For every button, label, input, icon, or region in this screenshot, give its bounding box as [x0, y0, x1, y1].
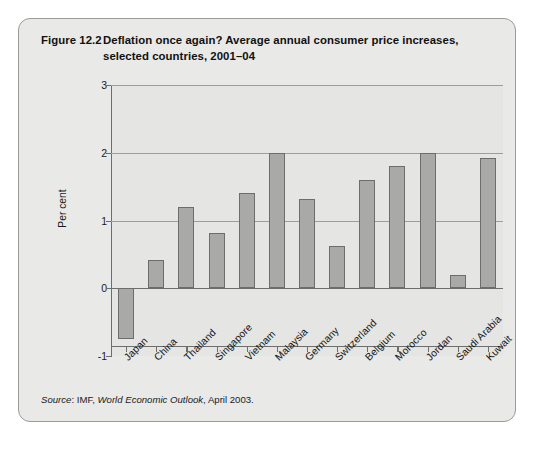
zero-line: [111, 288, 503, 289]
bar: [209, 233, 225, 289]
bar: [480, 158, 496, 288]
bar: [148, 260, 164, 288]
figure-title: Figure 12.2Deflation once again? Average…: [41, 33, 493, 64]
bar: [118, 288, 134, 339]
y-tick-label: 2: [87, 147, 107, 159]
figure-title-line-2: selected countries, 2001–04: [41, 49, 493, 65]
bar: [239, 193, 255, 288]
source-label: Source: [41, 394, 71, 405]
bar: [299, 199, 315, 288]
bar: [359, 180, 375, 288]
y-tick-label: 3: [87, 79, 107, 91]
figure-title-line-1: Deflation once again? Average annual con…: [103, 34, 459, 46]
y-tick-label: 0: [87, 282, 107, 294]
bar: [269, 153, 285, 289]
source-publication: World Economic Outlook: [98, 394, 204, 405]
bar: [420, 153, 436, 289]
y-tick-label: 1: [87, 215, 107, 227]
bar: [389, 166, 405, 288]
source-separator: : IMF,: [71, 394, 97, 405]
y-tick-label: -1: [87, 350, 107, 362]
figure-number: Figure 12.2: [41, 33, 103, 49]
source-date: , April 2003.: [203, 394, 254, 405]
source-note: Source: IMF, World Economic Outlook, Apr…: [41, 394, 254, 405]
bar: [329, 246, 345, 288]
y-axis-title: Per cent: [57, 174, 68, 244]
gridline: [111, 85, 503, 86]
bar-chart: -10123 JapanChinaThailandSingaporeVietna…: [41, 75, 493, 395]
bar: [178, 207, 194, 288]
gridline: [111, 153, 503, 154]
bar: [450, 275, 466, 289]
y-axis-ticks: -10123: [41, 75, 107, 357]
figure-panel: Figure 12.2Deflation once again? Average…: [18, 18, 516, 422]
